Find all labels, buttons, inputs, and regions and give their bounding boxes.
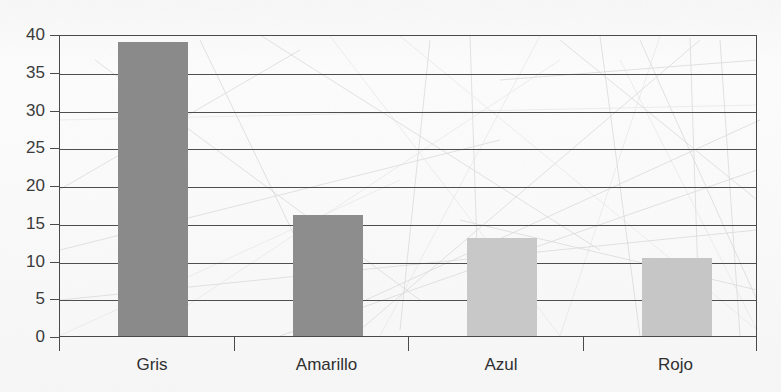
x-axis-tick-mark <box>408 337 409 351</box>
y-axis-tick-label: 25 <box>5 138 45 158</box>
y-axis-tick-label: 35 <box>5 63 45 83</box>
chart-page: · · 0510152025303540 GrisAmarilloAzulRoj… <box>0 0 781 392</box>
x-axis-tick-mark <box>756 337 757 351</box>
bar-azul <box>467 238 537 336</box>
y-axis-tick-mark <box>50 35 59 36</box>
bar-amarillo <box>293 215 363 336</box>
x-axis-tick-mark <box>234 337 235 351</box>
y-axis-tick-mark <box>50 148 59 149</box>
y-axis-tick-mark <box>50 262 59 263</box>
y-axis-tick-mark <box>50 337 59 338</box>
chart-title-cropped: · · <box>0 0 781 1</box>
y-axis: 0510152025303540 <box>0 0 59 392</box>
y-axis-tick-label: 40 <box>5 25 45 45</box>
y-axis-tick-label: 15 <box>5 214 45 234</box>
bar-gris <box>118 42 188 336</box>
y-axis-tick-label: 20 <box>5 176 45 196</box>
y-axis-tick-mark <box>50 299 59 300</box>
x-axis-category-label: Amarillo <box>296 355 357 375</box>
y-axis-tick-mark <box>50 111 59 112</box>
y-axis-tick-mark <box>50 73 59 74</box>
x-axis-tick-mark <box>59 337 60 351</box>
y-axis-tick-mark <box>50 186 59 187</box>
bar-rojo <box>642 258 712 336</box>
y-axis-tick-label: 30 <box>5 101 45 121</box>
x-axis-tick-mark <box>583 337 584 351</box>
y-axis-tick-label: 5 <box>5 289 45 309</box>
x-axis: GrisAmarilloAzulRojo <box>59 337 757 392</box>
y-axis-tick-mark <box>50 224 59 225</box>
plot-area <box>59 35 757 337</box>
y-axis-tick-label: 10 <box>5 252 45 272</box>
y-axis-tick-label: 0 <box>5 327 45 347</box>
x-axis-category-label: Gris <box>136 355 167 375</box>
x-axis-category-label: Azul <box>484 355 517 375</box>
x-axis-category-label: Rojo <box>658 355 693 375</box>
